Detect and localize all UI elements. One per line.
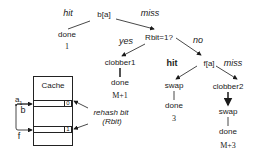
no-edge-label: no [193,36,203,45]
clobber2-cost-label: M+3 [220,141,236,150]
cache-box: Cache 0 1 [33,76,73,146]
swap-done-label: done [165,101,183,110]
root-node-b-a: b[a] [97,10,110,19]
root-hit-edge-label: hit [63,9,73,18]
clobber1-cost-label: M+1 [112,91,128,100]
yes-edge-label: yes [119,37,133,46]
f-hit-edge-label: hit [167,59,178,68]
clobber1-node: clobber1 [105,58,136,67]
hit-cost-label: 1 [65,42,69,51]
cache-title: Cache [34,81,72,90]
clobber2-done-label: done [219,127,237,136]
cache-row-f: 1 [34,126,72,133]
cache-row-b: 0 [34,100,72,107]
rbit-annotation: (Rbit) [102,117,122,126]
clobber2-node: clobber2 [213,82,244,91]
f-miss-edge-label: miss [224,59,243,68]
rehash-bit-annotation: rehash bit [93,108,128,117]
rbit-test-node: Rbit=1? [145,33,173,42]
rbit-cell-b: 0 [64,100,72,107]
swap-node: swap [165,81,184,90]
clobber1-done-label: done [111,78,129,87]
root-miss-edge-label: miss [141,9,160,18]
rbit-cell-f: 1 [64,126,72,133]
f-hash-label: f [18,132,21,141]
hit-done-label: done [58,30,76,39]
clobber2-swap-node: swap [219,107,238,116]
swap-cost-label: 3 [172,114,176,123]
f-a-node: f[a] [203,59,214,68]
b-hash-label: b [20,106,25,115]
